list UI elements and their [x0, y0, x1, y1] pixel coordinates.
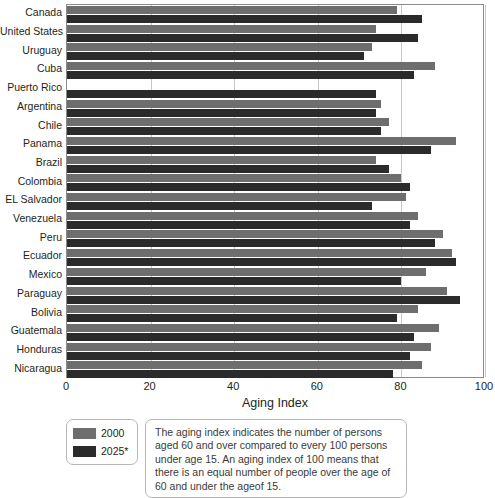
bar-puerto-rico-2025	[67, 90, 376, 98]
bar-paraguay-2025	[67, 296, 460, 304]
bar-chile-2000	[67, 118, 389, 126]
category-label: United States	[0, 26, 62, 37]
legend-item-2000: 2000	[73, 425, 131, 441]
bar-group	[67, 99, 483, 118]
bar-venezuela-2000	[67, 212, 418, 220]
bar-chile-2025	[67, 127, 381, 135]
category-label: Brazil	[0, 157, 62, 168]
category-label: Mexico	[0, 269, 62, 280]
bars-layer	[67, 5, 483, 377]
bar-paraguay-2000	[67, 287, 447, 295]
legend-swatch-2000	[73, 428, 96, 439]
bar-united-states-2025	[67, 34, 418, 42]
bar-colombia-2025	[67, 183, 410, 191]
category-label: Ecuador	[0, 250, 62, 261]
bar-group	[67, 61, 483, 80]
bar-panama-2025	[67, 146, 431, 154]
bar-honduras-2025	[67, 352, 410, 360]
bar-el-salvador-2000	[67, 193, 406, 201]
bar-ecuador-2025	[67, 258, 456, 266]
x-axis-ticks: 020406080100	[66, 378, 484, 398]
x-tick-label: 100	[475, 380, 493, 392]
bar-nicaragua-2000	[67, 361, 422, 369]
bar-argentina-2000	[67, 100, 381, 108]
bar-colombia-2000	[67, 174, 401, 182]
gridline	[485, 5, 486, 377]
x-tick-label: 60	[311, 380, 323, 392]
caption-text: The aging index indicates the number of …	[155, 426, 397, 493]
bar-canada-2025	[67, 15, 422, 23]
bar-guatemala-2025	[67, 333, 414, 341]
legend-label-2025: 2025*	[101, 445, 128, 457]
bar-uruguay-2000	[67, 43, 372, 51]
category-label: Chile	[0, 120, 62, 131]
x-tick-label: 0	[63, 380, 69, 392]
bar-guatemala-2000	[67, 324, 439, 332]
bar-group	[67, 267, 483, 286]
category-label: Paraguay	[0, 288, 62, 299]
bar-brazil-2025	[67, 165, 389, 173]
bar-group	[67, 42, 483, 61]
bar-honduras-2000	[67, 343, 431, 351]
bar-group	[67, 360, 483, 379]
x-tick-label: 80	[394, 380, 406, 392]
category-label: Honduras	[0, 344, 62, 355]
bar-panama-2000	[67, 137, 456, 145]
category-label: Bolivia	[0, 307, 62, 318]
bar-uruguay-2025	[67, 52, 364, 60]
bar-group	[67, 211, 483, 230]
caption-box: The aging index indicates the number of …	[145, 419, 407, 498]
category-label: Uruguay	[0, 45, 62, 56]
bar-peru-2025	[67, 239, 435, 247]
x-axis-title: Aging Index	[66, 396, 484, 410]
bar-group	[67, 229, 483, 248]
bar-group	[67, 80, 483, 99]
bar-canada-2000	[67, 6, 397, 14]
bar-group	[67, 192, 483, 211]
category-label: Venezuela	[0, 213, 62, 224]
bar-venezuela-2025	[67, 221, 410, 229]
bar-united-states-2000	[67, 25, 376, 33]
category-label: Cuba	[0, 63, 62, 74]
legend-item-2025: 2025*	[73, 443, 131, 459]
bar-group	[67, 323, 483, 342]
category-label: EL Salvador	[0, 194, 62, 205]
bar-group	[67, 5, 483, 24]
bar-bolivia-2000	[67, 305, 418, 313]
bar-group	[67, 342, 483, 361]
bar-group	[67, 136, 483, 155]
category-label: Nicaragua	[0, 363, 62, 374]
x-tick-label: 40	[227, 380, 239, 392]
category-label: Guatemala	[0, 325, 62, 336]
bar-group	[67, 24, 483, 43]
bar-argentina-2025	[67, 109, 376, 117]
bar-el-salvador-2025	[67, 202, 372, 210]
category-label: Colombia	[0, 176, 62, 187]
category-label: Argentina	[0, 101, 62, 112]
legend-swatch-2025	[73, 446, 96, 457]
bar-brazil-2000	[67, 156, 376, 164]
bar-ecuador-2000	[67, 249, 452, 257]
category-label: Canada	[0, 7, 62, 18]
bar-mexico-2000	[67, 268, 426, 276]
x-tick-label: 20	[143, 380, 155, 392]
bar-group	[67, 155, 483, 174]
bar-cuba-2000	[67, 62, 435, 70]
bar-group	[67, 248, 483, 267]
category-label: Panama	[0, 138, 62, 149]
bar-peru-2000	[67, 230, 443, 238]
category-label: Puerto Rico	[0, 82, 62, 93]
category-label: Peru	[0, 232, 62, 243]
legend-label-2000: 2000	[101, 427, 124, 439]
chart-figure: CanadaUnited StatesUruguayCubaPuerto Ric…	[0, 0, 495, 498]
bar-bolivia-2025	[67, 314, 397, 322]
bar-cuba-2025	[67, 71, 414, 79]
bar-mexico-2025	[67, 277, 401, 285]
bar-group	[67, 117, 483, 136]
bar-group	[67, 304, 483, 323]
bar-group	[67, 173, 483, 192]
legend: 2000 2025*	[66, 419, 138, 465]
plot-area	[66, 4, 484, 378]
bar-group	[67, 286, 483, 305]
